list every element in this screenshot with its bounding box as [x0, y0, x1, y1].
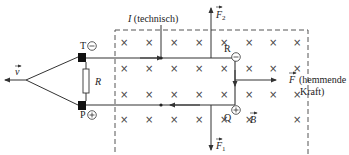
svg-text:×: ×: [269, 37, 277, 48]
svg-text:×: ×: [195, 89, 203, 100]
field-b-label: B: [250, 114, 256, 125]
svg-text:×: ×: [145, 89, 153, 100]
svg-text:×: ×: [145, 114, 153, 125]
resistor: [83, 69, 89, 93]
svg-text:×: ×: [145, 63, 153, 74]
svg-text:×: ×: [245, 63, 253, 74]
junction-dot-bottom: [159, 103, 162, 106]
svg-text:×: ×: [245, 89, 253, 100]
point-r-label: R: [224, 43, 231, 54]
svg-text:×: ×: [170, 63, 178, 74]
svg-text:×: ×: [293, 37, 301, 48]
svg-text:×: ×: [293, 63, 301, 74]
current-label: I (technisch): [127, 13, 178, 25]
svg-text:×: ×: [120, 37, 128, 48]
force-f-label: F: [288, 74, 296, 85]
svg-text:×: ×: [120, 63, 128, 74]
rail-bottom: [26, 80, 78, 105]
svg-text:×: ×: [195, 63, 203, 74]
svg-text:×: ×: [195, 37, 203, 48]
velocity-label: v: [15, 66, 20, 77]
svg-text:×: ×: [220, 89, 228, 100]
svg-text:×: ×: [120, 89, 128, 100]
svg-text:×: ×: [195, 114, 203, 125]
svg-text:×: ×: [269, 89, 277, 100]
point-q-label: Q: [224, 112, 232, 123]
force-f-note-2: Kraft): [300, 86, 324, 98]
svg-text:×: ×: [170, 89, 178, 100]
induction-diagram: × × × × × × × × × × × × × × × × × × × × …: [0, 0, 349, 155]
point-t-label: T: [80, 40, 86, 51]
point-p-label: P: [80, 109, 86, 120]
svg-text:×: ×: [120, 114, 128, 125]
svg-text:×: ×: [220, 63, 228, 74]
svg-text:×: ×: [170, 114, 178, 125]
force-f1-label: F1: [215, 140, 226, 153]
contact-t: [78, 53, 86, 62]
svg-text:×: ×: [245, 37, 253, 48]
svg-text:×: ×: [293, 114, 301, 125]
force-f-note-1: (hemmende: [299, 74, 347, 86]
svg-text:×: ×: [170, 37, 178, 48]
resistor-label: R: [94, 76, 101, 87]
svg-text:×: ×: [269, 63, 277, 74]
svg-text:×: ×: [145, 37, 153, 48]
rail-top: [26, 57, 78, 80]
conductor-loop: [83, 58, 235, 105]
force-f2-label: F2: [215, 9, 226, 22]
